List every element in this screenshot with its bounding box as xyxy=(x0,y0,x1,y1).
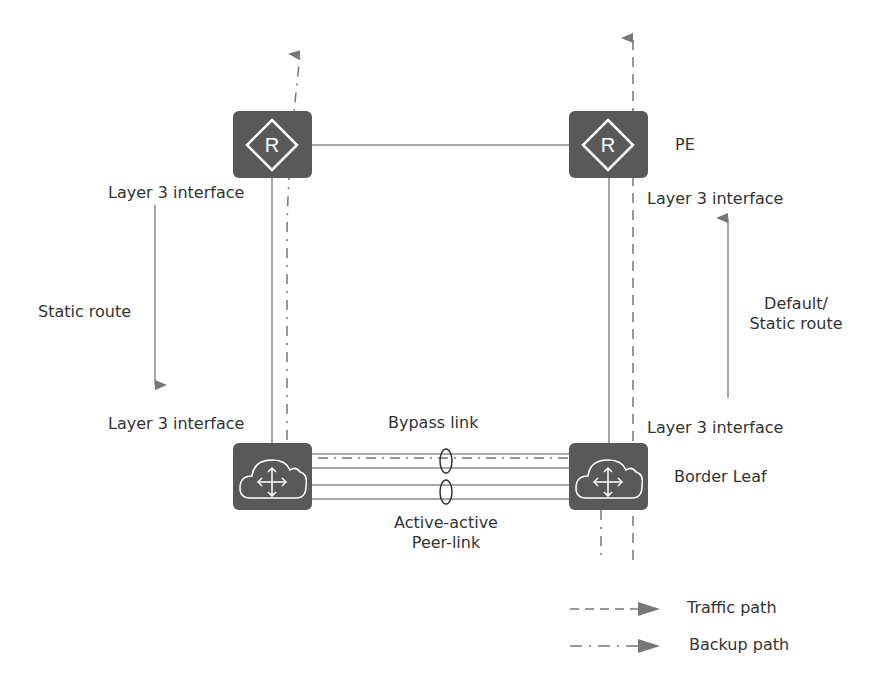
border-leaf-left-switch[interactable] xyxy=(233,443,312,510)
pe-right-router[interactable]: R xyxy=(569,111,648,178)
peer-link-label: Active-active Peer-link xyxy=(376,513,516,553)
left-bottom-interface-label: Layer 3 interface xyxy=(108,414,244,434)
peer-link-bundle-icon xyxy=(440,480,452,504)
svg-text:R: R xyxy=(601,134,615,156)
bypass-link-label: Bypass link xyxy=(388,413,478,433)
default-static-route-label: Default/ Static route xyxy=(736,294,856,334)
right-bottom-interface-label: Layer 3 interface xyxy=(647,418,783,438)
pe-left-router[interactable]: R xyxy=(233,111,312,178)
left-top-interface-label: Layer 3 interface xyxy=(108,183,244,203)
legend-traffic-path-label: Traffic path xyxy=(687,598,777,618)
network-diagram: R R xyxy=(0,0,884,696)
legend-backup-path-swatch xyxy=(570,639,660,653)
static-route-label: Static route xyxy=(38,302,131,322)
svg-text:R: R xyxy=(265,134,279,156)
legend-backup-path-label: Backup path xyxy=(689,635,789,655)
pe-label: PE xyxy=(675,135,695,155)
legend-traffic-path-swatch xyxy=(570,602,660,616)
peer-link-line2: Peer-link xyxy=(376,533,516,553)
border-leaf-right-switch[interactable] xyxy=(569,443,648,510)
right-top-interface-label: Layer 3 interface xyxy=(647,189,783,209)
border-leaf-label: Border Leaf xyxy=(674,467,767,487)
peer-link-line1: Active-active xyxy=(376,513,516,533)
default-static-route-line1: Default/ xyxy=(736,294,856,314)
bypass-link-bundle-icon xyxy=(440,449,452,473)
default-static-route-line2: Static route xyxy=(736,314,856,334)
